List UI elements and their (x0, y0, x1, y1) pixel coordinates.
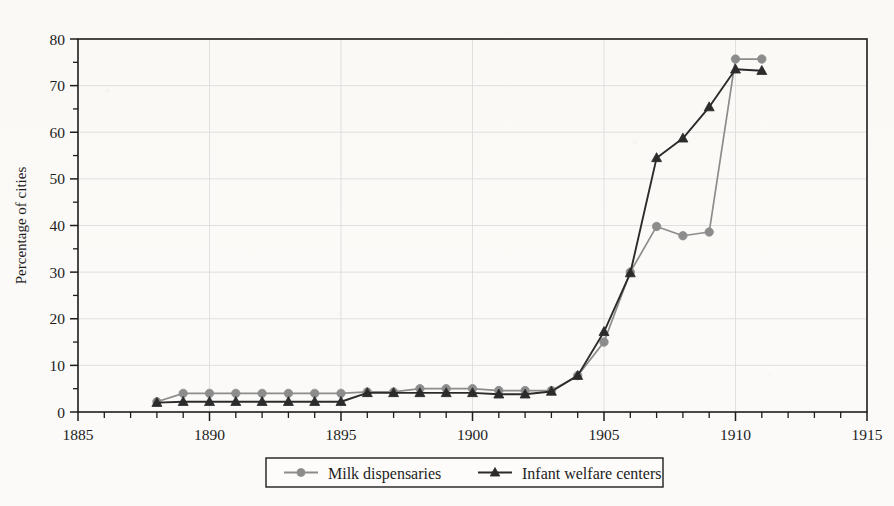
y-axis-title: Percentage of cities (13, 167, 29, 285)
data-point-circle (600, 338, 608, 346)
y-tick-label: 60 (50, 124, 66, 141)
legend-label: Milk dispensaries (328, 465, 441, 483)
x-tick-label: 1905 (589, 426, 620, 443)
axis-ticks (70, 39, 867, 421)
data-series-layer (152, 55, 767, 407)
data-point-circle (679, 232, 687, 240)
grid-lines (78, 39, 867, 412)
x-tick-label: 1915 (852, 426, 883, 443)
y-tick-label: 10 (50, 357, 66, 374)
y-tick-label: 20 (50, 310, 66, 327)
data-point-circle (705, 228, 713, 236)
data-point-circle (652, 222, 660, 230)
x-tick-label: 1895 (326, 426, 357, 443)
x-tick-label: 1885 (63, 426, 94, 443)
y-tick-label: 70 (50, 77, 66, 94)
y-tick-label: 50 (50, 170, 66, 187)
chart-legend[interactable]: Milk dispensariesInfant welfare centers (266, 458, 663, 487)
x-tick-label: 1890 (194, 426, 225, 443)
line-chart: 1885189018951900190519101915 01020304050… (0, 0, 894, 506)
data-point-triangle (652, 153, 662, 162)
y-tick-label: 80 (50, 31, 66, 48)
series-infant-welfare-centers (152, 64, 767, 406)
x-tick-label: 1910 (720, 426, 751, 443)
x-axis-tick-labels: 1885189018951900190519101915 (63, 426, 883, 443)
data-point-circle (731, 55, 739, 63)
y-tick-label: 30 (50, 264, 66, 281)
data-point-circle (297, 469, 305, 477)
series-line (157, 69, 762, 402)
y-axis-tick-labels: 01020304050607080 (50, 31, 66, 421)
data-point-circle (758, 55, 766, 63)
chart-page: 1885189018951900190519101915 01020304050… (0, 0, 894, 506)
y-tick-label: 0 (57, 404, 65, 421)
x-tick-label: 1900 (457, 426, 488, 443)
y-tick-label: 40 (50, 217, 66, 234)
legend-label: Infant welfare centers (522, 465, 661, 482)
series-line (157, 59, 762, 402)
series-milk-dispensaries (153, 55, 766, 406)
